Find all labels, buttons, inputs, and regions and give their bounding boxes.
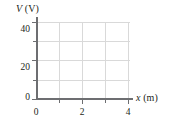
gridline-y-30 [36, 41, 130, 42]
plot-area [36, 22, 130, 99]
gridline-x-3 [105, 22, 106, 99]
x-tick-label-0: 0 [29, 107, 43, 117]
y-tick-label-20: 20 [12, 62, 30, 72]
gridline-x-2 [82, 22, 83, 99]
x-tick-4 [128, 100, 129, 104]
gridline-y-20 [36, 60, 130, 61]
x-tick-3 [105, 100, 106, 103]
y-tick-label-40: 40 [12, 24, 30, 34]
x-tick-label-2: 2 [75, 107, 89, 117]
gridline-x-4 [128, 22, 129, 99]
x-axis-title: x (m) [136, 92, 158, 103]
gridline-x-1 [59, 22, 60, 99]
y-tick-40 [32, 22, 36, 23]
y-axis-line [36, 17, 38, 99]
x-axis-variable: x [136, 92, 141, 103]
gridline-y-10 [36, 80, 130, 81]
y-axis-title: V (V) [16, 3, 39, 14]
y-tick-30 [33, 41, 36, 42]
x-axis-line [36, 98, 133, 100]
y-tick-label-0: 0 [12, 92, 30, 102]
y-tick-0 [32, 99, 36, 100]
graph-figure: V (V) x (m) 40 20 0 0 2 4 [0, 0, 175, 128]
x-tick-label-4: 4 [121, 107, 135, 117]
x-tick-1 [59, 100, 60, 103]
y-tick-10 [33, 80, 36, 81]
gridline-y-40 [36, 22, 130, 23]
x-tick-2 [82, 100, 83, 104]
y-axis-unit: (V) [25, 3, 39, 14]
x-axis-unit: (m) [143, 92, 158, 103]
y-tick-20 [32, 60, 36, 61]
